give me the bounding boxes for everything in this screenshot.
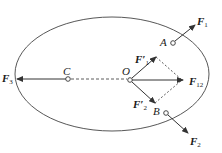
point-b <box>164 111 169 116</box>
rigid-body-outline <box>15 17 209 131</box>
point-o <box>128 78 133 83</box>
force-f1-arrow <box>175 25 195 41</box>
label-force-f12: F12 <box>189 76 203 89</box>
label-force-f2: F2 <box>190 136 201 149</box>
label-force-f1-prime: F′1 <box>135 54 149 67</box>
force-f2-arrow <box>168 115 188 133</box>
label-point-o: O <box>122 66 130 77</box>
label-point-c: C <box>63 66 70 77</box>
point-c <box>66 77 71 82</box>
parallelogram-edge-top <box>156 57 182 80</box>
label-point-a: A <box>160 37 167 48</box>
label-force-f2-prime: F′2 <box>133 99 147 112</box>
label-force-f1: F1 <box>197 16 208 29</box>
parallelogram-edge-bottom <box>155 80 182 103</box>
label-point-b: B <box>153 106 160 117</box>
point-a <box>171 41 176 46</box>
label-force-f3: F3 <box>2 73 13 86</box>
